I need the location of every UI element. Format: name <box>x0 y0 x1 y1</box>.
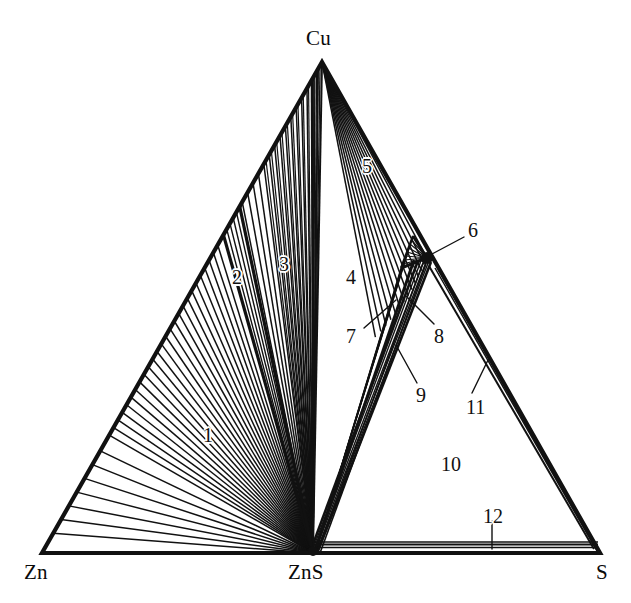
vertex-label-zns: ZnS <box>288 560 324 585</box>
vertex-label-cu: Cu <box>306 26 331 51</box>
region-label-1: 1 <box>203 424 213 447</box>
region-label-7: 7 <box>346 325 356 348</box>
region-label-6: 6 <box>468 219 478 242</box>
region-label-2: 2 <box>232 266 242 289</box>
region-label-8: 8 <box>434 325 444 348</box>
region-label-4: 4 <box>346 266 356 289</box>
vertex-label-s: S <box>596 560 608 585</box>
region-label-11: 11 <box>466 396 485 419</box>
label-leader-lines <box>364 237 492 549</box>
diagram-canvas <box>0 0 631 603</box>
region-label-9: 9 <box>416 384 426 407</box>
region-label-5: 5 <box>362 155 372 178</box>
region-label-3: 3 <box>279 253 289 276</box>
vertex-label-zn: Zn <box>24 560 48 585</box>
narrow-band-region-12 <box>313 542 598 548</box>
ternary-phase-diagram-figure: Cu Zn S ZnS 123456789101112 <box>0 0 631 603</box>
region-label-10: 10 <box>441 453 461 476</box>
region-label-12: 12 <box>483 505 503 528</box>
